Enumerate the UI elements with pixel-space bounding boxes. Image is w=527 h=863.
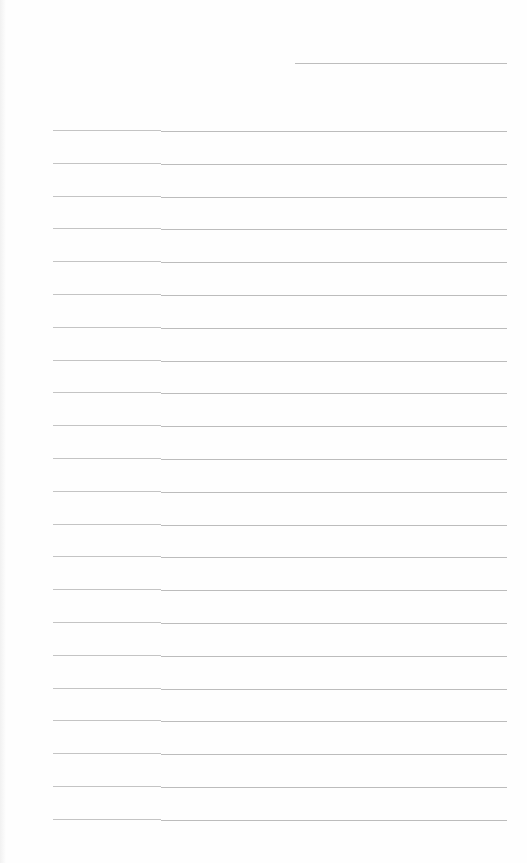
row-right-field-line[interactable] bbox=[161, 262, 507, 263]
row-left-field-line[interactable] bbox=[53, 392, 161, 393]
row-left-field-line[interactable] bbox=[53, 196, 161, 197]
form-row bbox=[53, 360, 507, 361]
form-row bbox=[53, 392, 507, 393]
row-right-field-line[interactable] bbox=[161, 393, 507, 394]
form-row bbox=[53, 688, 507, 689]
form-row bbox=[53, 720, 507, 721]
row-right-field-line[interactable] bbox=[161, 164, 507, 165]
form-row bbox=[53, 556, 507, 557]
row-right-field-line[interactable] bbox=[161, 787, 507, 788]
form-row bbox=[53, 491, 507, 492]
row-left-field-line[interactable] bbox=[53, 163, 161, 164]
row-right-field-line[interactable] bbox=[161, 721, 507, 722]
form-row bbox=[53, 819, 507, 820]
row-right-field-line[interactable] bbox=[161, 623, 507, 624]
form-row bbox=[53, 655, 507, 656]
row-right-field-line[interactable] bbox=[161, 525, 507, 526]
row-left-field-line[interactable] bbox=[53, 720, 161, 721]
row-right-field-line[interactable] bbox=[161, 557, 507, 558]
row-left-field-line[interactable] bbox=[53, 327, 161, 328]
row-right-field-line[interactable] bbox=[161, 229, 507, 230]
row-left-field-line[interactable] bbox=[53, 819, 161, 820]
form-row bbox=[53, 622, 507, 623]
row-left-field-line[interactable] bbox=[53, 261, 161, 262]
row-right-field-line[interactable] bbox=[161, 492, 507, 493]
row-right-field-line[interactable] bbox=[161, 361, 507, 362]
form-row bbox=[53, 196, 507, 197]
row-left-field-line[interactable] bbox=[53, 425, 161, 426]
form-row bbox=[53, 294, 507, 295]
row-right-field-line[interactable] bbox=[161, 197, 507, 198]
form-row bbox=[53, 228, 507, 229]
row-left-field-line[interactable] bbox=[53, 589, 161, 590]
form-row bbox=[53, 458, 507, 459]
row-right-field-line[interactable] bbox=[161, 295, 507, 296]
row-right-field-line[interactable] bbox=[161, 590, 507, 591]
row-left-field-line[interactable] bbox=[53, 458, 161, 459]
row-left-field-line[interactable] bbox=[53, 786, 161, 787]
row-left-field-line[interactable] bbox=[53, 294, 161, 295]
form-row bbox=[53, 425, 507, 426]
row-left-field-line[interactable] bbox=[53, 688, 161, 689]
row-right-field-line[interactable] bbox=[161, 656, 507, 657]
ruled-rows bbox=[0, 0, 527, 863]
row-left-field-line[interactable] bbox=[53, 130, 161, 131]
row-right-field-line[interactable] bbox=[161, 820, 507, 821]
form-row bbox=[53, 261, 507, 262]
row-left-field-line[interactable] bbox=[53, 622, 161, 623]
row-left-field-line[interactable] bbox=[53, 655, 161, 656]
row-left-field-line[interactable] bbox=[53, 360, 161, 361]
row-right-field-line[interactable] bbox=[161, 328, 507, 329]
row-left-field-line[interactable] bbox=[53, 524, 161, 525]
form-row bbox=[53, 524, 507, 525]
form-row bbox=[53, 163, 507, 164]
form-row bbox=[53, 589, 507, 590]
row-left-field-line[interactable] bbox=[53, 753, 161, 754]
row-right-field-line[interactable] bbox=[161, 689, 507, 690]
row-left-field-line[interactable] bbox=[53, 556, 161, 557]
row-right-field-line[interactable] bbox=[161, 131, 507, 132]
row-right-field-line[interactable] bbox=[161, 459, 507, 460]
row-left-field-line[interactable] bbox=[53, 491, 161, 492]
row-right-field-line[interactable] bbox=[161, 426, 507, 427]
form-row bbox=[53, 786, 507, 787]
form-row bbox=[53, 753, 507, 754]
form-row bbox=[53, 327, 507, 328]
form-row bbox=[53, 130, 507, 131]
ruled-page bbox=[0, 0, 527, 863]
row-right-field-line[interactable] bbox=[161, 754, 507, 755]
row-left-field-line[interactable] bbox=[53, 228, 161, 229]
